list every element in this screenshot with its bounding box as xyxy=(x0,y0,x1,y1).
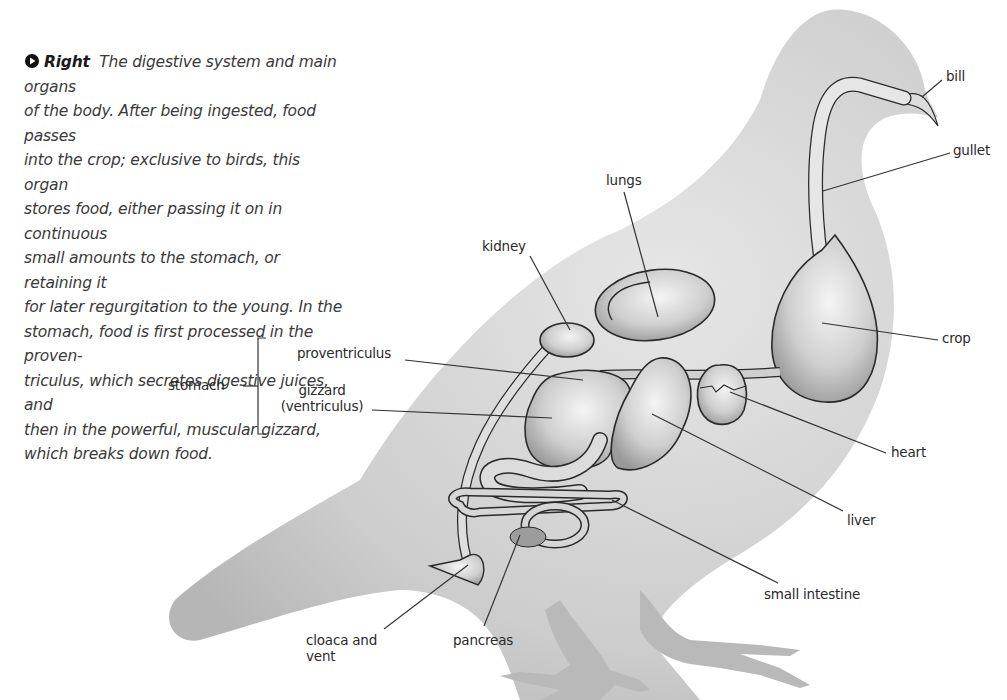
label-heart: heart xyxy=(891,444,926,460)
label-gizzard: gizzard (ventriculus) xyxy=(276,382,368,414)
caption-line-2: into the crop; exclusive to birds, this … xyxy=(24,151,300,194)
label-crop: crop xyxy=(942,330,971,346)
label-liver: liver xyxy=(847,512,875,528)
label-lungs: lungs xyxy=(606,172,641,188)
caption-line-6: stomach, food is first processed in the … xyxy=(24,323,313,366)
label-proventriculus: proventriculus xyxy=(297,345,391,361)
caption-line-4: small amounts to the stomach, or retaini… xyxy=(24,249,280,292)
caption-line-8: then in the powerful, muscular gizzard, xyxy=(24,421,321,439)
caption-line-1: of the body. After being ingested, food … xyxy=(24,102,316,145)
label-small-intestine: small intestine xyxy=(764,586,860,602)
caption-line-9: which breaks down food. xyxy=(24,445,213,463)
kidney-shape xyxy=(540,323,594,357)
label-gullet: gullet xyxy=(953,142,990,158)
label-kidney: kidney xyxy=(482,238,526,254)
label-bill: bill xyxy=(946,68,965,84)
label-pancreas: pancreas xyxy=(453,632,513,648)
label-gizzard-line1: gizzard xyxy=(298,382,345,398)
label-stomach: stomach xyxy=(168,377,225,393)
pancreas-shape xyxy=(510,527,546,547)
label-cloaca-line1: cloaca and xyxy=(306,632,377,648)
label-cloaca-and-vent: cloaca and vent xyxy=(306,632,377,664)
caption-line-5: for later regurgitation to the young. In… xyxy=(24,298,342,316)
heart-shape xyxy=(697,365,746,425)
play-arrow-icon xyxy=(24,53,40,69)
caption-line-3: stores food, either passing it on in con… xyxy=(24,200,282,243)
caption-lead: Right xyxy=(44,53,90,71)
label-gizzard-line2: (ventriculus) xyxy=(281,398,364,414)
label-cloaca-line2: vent xyxy=(306,648,335,664)
